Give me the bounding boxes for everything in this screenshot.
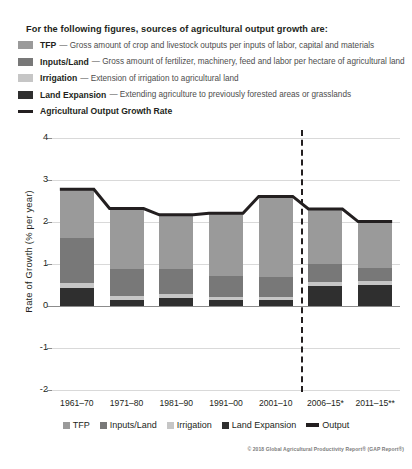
legend-color-swatch [222, 422, 229, 429]
legend-row: TFP— Gross amount of crop and livestock … [18, 38, 412, 52]
x-tick-label: 2001–10 [248, 398, 304, 408]
legend-term: Land Expansion [40, 90, 106, 100]
copyright-text: © 2018 Global Agricultural Productivity … [0, 446, 404, 452]
chart-page: For the following figures, sources of ag… [0, 0, 412, 469]
legend-row: Agricultural Output Growth Rate [18, 104, 412, 118]
bottom-legend: TFPInputs/LandIrrigationLand ExpansionOu… [0, 420, 412, 430]
legend-color-swatch [63, 422, 70, 429]
x-tick-label: 2011–15** [347, 398, 403, 408]
legend-term: TFP [40, 40, 56, 50]
legend-row: Irrigation— Extension of irrigation to a… [18, 71, 412, 85]
bottom-legend-label: Irrigation [177, 420, 212, 430]
legend-row: Inputs/Land— Gross amount of fertilizer,… [18, 55, 412, 69]
inputs-land-swatch [18, 58, 33, 66]
plot-area: Rate of Growth (% per year) 43210-1-2 19… [0, 130, 412, 415]
intro-text: For the following figures, sources of ag… [26, 24, 398, 34]
tfp-swatch [18, 41, 33, 49]
irrigation-swatch [18, 74, 33, 82]
bottom-legend-label: TFP [73, 420, 90, 430]
y-axis-label: Rate of Growth (% per year) [23, 177, 34, 327]
y-tick-label: 4 [34, 132, 48, 142]
output-line-swatch [18, 110, 33, 113]
output-line-icon [306, 423, 319, 427]
x-tick-label: 2006–15* [297, 398, 353, 408]
legend-description-list: TFP— Gross amount of crop and livestock … [18, 38, 412, 121]
legend-color-swatch [167, 422, 174, 429]
x-axis-tick-labels: 1961–701971–801981–901991–002001–102006–… [52, 398, 400, 414]
legend-description: — Gross amount of crop and livestock out… [59, 41, 374, 50]
x-tick-label: 1981–90 [148, 398, 204, 408]
bottom-legend-item[interactable]: Output [306, 420, 349, 430]
legend-description: — Gross amount of fertilizer, machinery,… [92, 57, 405, 66]
bottom-legend-label: Inputs/Land [110, 420, 157, 430]
legend-description: — Extending agriculture to previously fo… [109, 90, 351, 99]
legend-term: Inputs/Land [40, 57, 89, 67]
legend-term: Agricultural Output Growth Rate [40, 106, 172, 116]
y-tick-label: -2 [34, 384, 48, 394]
y-tick-label: 0 [34, 300, 48, 310]
y-tick-label: 3 [34, 174, 48, 184]
x-tick-label: 1961–70 [49, 398, 105, 408]
bottom-legend-item[interactable]: Inputs/Land [100, 420, 157, 430]
bottom-legend-label: Land Expansion [232, 420, 297, 430]
y-tick-label: -1 [34, 342, 48, 352]
x-tick-label: 1971–80 [99, 398, 155, 408]
bottom-legend-label: Output [322, 420, 349, 430]
legend-description: — Extension of irrigation to agricultura… [80, 74, 238, 83]
bottom-legend-item[interactable]: TFP [63, 420, 90, 430]
y-tick-label: 1 [34, 258, 48, 268]
bottom-legend-item[interactable]: Irrigation [167, 420, 212, 430]
bottom-legend-item[interactable]: Land Expansion [222, 420, 297, 430]
output-line-chart [52, 138, 400, 390]
gridline [52, 390, 400, 391]
land-expansion-swatch [18, 91, 33, 99]
x-tick-label: 1991–00 [198, 398, 254, 408]
legend-term: Irrigation [40, 73, 77, 83]
output-growth-line [60, 189, 392, 221]
legend-color-swatch [100, 422, 107, 429]
y-tick-label: 2 [34, 216, 48, 226]
legend-row: Land Expansion— Extending agriculture to… [18, 88, 412, 102]
grid-area: 43210-1-2 [52, 138, 400, 390]
